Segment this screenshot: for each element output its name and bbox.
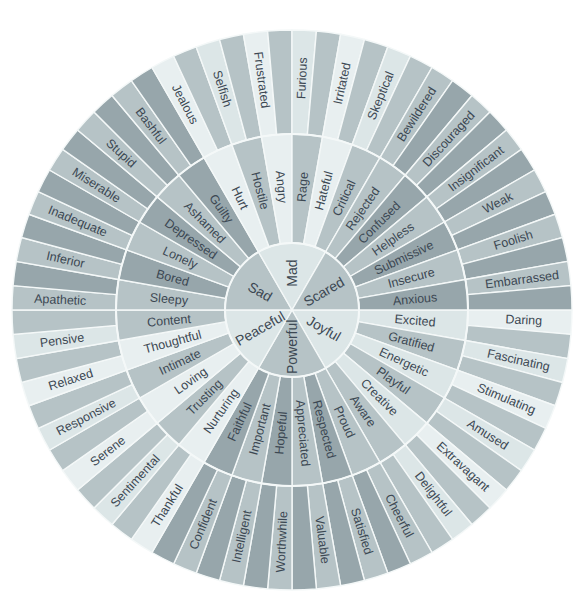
tertiary-label: Worthwhile	[274, 511, 291, 573]
core-label: Mad	[284, 260, 300, 287]
emotion-wheel: ExcitedDaringGratifiedFascinatingEnerget…	[0, 0, 583, 613]
emotion-wheel-svg: ExcitedDaringGratifiedFascinatingEnerget…	[0, 0, 583, 613]
secondary-label: Angry	[273, 170, 290, 204]
tertiary-label: Furious	[294, 57, 310, 99]
core-label: Powerful	[284, 320, 300, 374]
tertiary-label: Apathetic	[34, 292, 87, 308]
tertiary-label: Daring	[505, 312, 542, 328]
secondary-label: Rage	[294, 171, 311, 202]
